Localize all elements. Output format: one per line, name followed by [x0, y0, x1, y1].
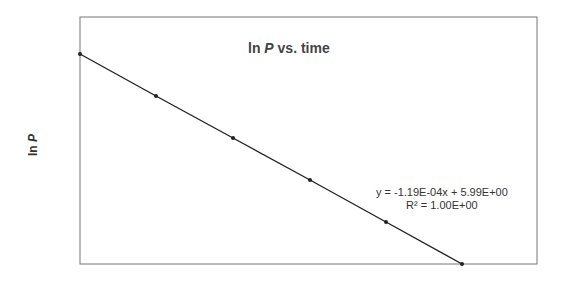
chart-title-suffix: vs. time — [274, 40, 330, 56]
data-point — [231, 136, 235, 140]
data-point — [460, 262, 464, 266]
trendline — [80, 54, 462, 264]
chart-title-italic: P — [264, 40, 273, 56]
y-axis-label-prefix: ln — [26, 142, 40, 156]
y-axis-label: ln P — [26, 134, 40, 156]
chart: ln P ln P vs. time y = -1.19E-04x + 5.99… — [0, 0, 562, 290]
data-point — [154, 94, 158, 98]
data-point — [384, 220, 388, 224]
chart-title-prefix: ln — [248, 40, 264, 56]
data-point — [308, 178, 312, 182]
equation-label: y = -1.19E-04x + 5.99E+00 — [376, 186, 508, 199]
data-point — [78, 52, 82, 56]
chart-title: ln P vs. time — [248, 40, 330, 56]
trendline-equation: y = -1.19E-04x + 5.99E+00 R² = 1.00E+00 — [376, 186, 508, 212]
y-axis-label-italic: P — [26, 134, 40, 142]
r-squared-label: R² = 1.00E+00 — [376, 199, 508, 212]
